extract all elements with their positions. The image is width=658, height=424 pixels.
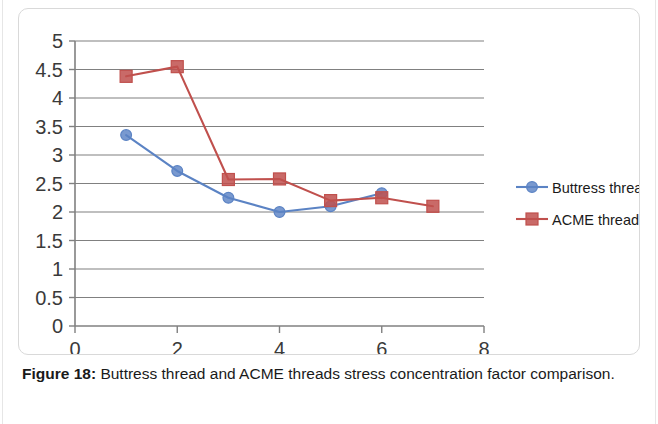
legend-marker	[527, 182, 538, 193]
y-tick-label: 3.5	[35, 116, 63, 138]
x-tick-label: 8	[478, 338, 489, 354]
y-tick-label: 0	[52, 315, 63, 337]
data-point-marker	[376, 192, 388, 204]
data-point-marker	[172, 166, 183, 177]
y-tick-label: 5	[52, 30, 63, 52]
x-tick-label: 2	[172, 338, 183, 354]
data-point-marker	[222, 174, 234, 186]
x-tick-label: 6	[376, 338, 387, 354]
y-tick-label: 1	[52, 258, 63, 280]
page-edge-left	[2, 0, 3, 424]
page-edge-right	[655, 0, 656, 424]
figure-caption-label: Figure 18:	[22, 365, 96, 382]
figure-caption: Figure 18: Buttress thread and ACME thre…	[22, 364, 640, 384]
data-point-marker	[120, 70, 132, 82]
y-tick-label: 2	[52, 201, 63, 223]
legend-label: Buttress threading	[552, 180, 639, 196]
x-tick-label: 0	[69, 338, 80, 354]
legend-entry-1: ACME threading	[516, 212, 639, 228]
y-tick-label: 4.5	[35, 59, 63, 81]
line-chart: 00.511.522.533.544.5502468Buttress threa…	[19, 9, 639, 354]
legend-label: ACME threading	[552, 212, 639, 228]
chart-frame: 00.511.522.533.544.5502468Buttress threa…	[18, 8, 640, 355]
figure-caption-text: Buttress thread and ACME threads stress …	[96, 365, 615, 382]
x-tick-label: 4	[274, 338, 285, 354]
figure-container: 00.511.522.533.544.5502468Buttress threa…	[0, 0, 658, 424]
y-tick-label: 4	[52, 87, 63, 109]
data-point-marker	[121, 130, 132, 141]
y-tick-label: 2.5	[35, 173, 63, 195]
y-tick-label: 1.5	[35, 230, 63, 252]
data-point-marker	[223, 192, 234, 203]
legend-entry-0: Buttress threading	[516, 180, 639, 196]
y-tick-label: 0.5	[35, 287, 63, 309]
legend-marker	[526, 213, 538, 225]
data-point-marker	[274, 207, 285, 218]
y-tick-label: 3	[52, 144, 63, 166]
data-point-marker	[171, 61, 183, 73]
data-point-marker	[274, 173, 286, 185]
data-point-marker	[325, 195, 337, 207]
data-point-marker	[427, 200, 439, 212]
